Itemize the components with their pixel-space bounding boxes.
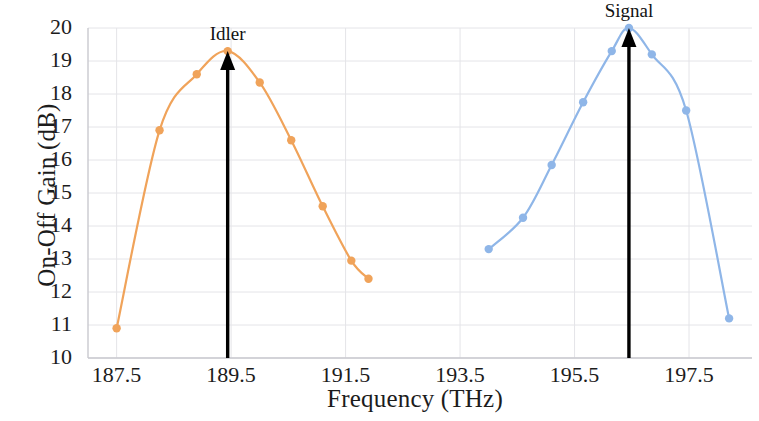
y-tick-label: 10 (28, 344, 72, 370)
x-tick-label: 187.5 (72, 362, 162, 388)
data-series-group (112, 24, 733, 333)
x-axis-title: Frequency (THz) (250, 385, 580, 413)
y-tick-label: 18 (28, 80, 72, 106)
x-tick-label: 191.5 (301, 362, 391, 388)
y-tick-label: 13 (28, 245, 72, 271)
data-point-marker (519, 214, 527, 222)
y-tick-label: 12 (28, 278, 72, 304)
data-point-marker (318, 202, 326, 210)
data-point-marker (256, 78, 264, 86)
data-point-marker (193, 70, 201, 78)
y-tick-label: 20 (28, 14, 72, 40)
y-tick-label: 16 (28, 146, 72, 172)
data-point-marker (725, 314, 733, 322)
data-point-marker (648, 50, 656, 58)
peak-arrow-idler (220, 51, 235, 358)
data-series-idler (112, 47, 372, 333)
gridlines (88, 28, 752, 358)
y-tick-label: 15 (28, 179, 72, 205)
y-tick-label: 19 (28, 47, 72, 73)
data-point-marker (484, 245, 492, 253)
series-line (489, 28, 729, 318)
y-tick-label: 14 (28, 212, 72, 238)
x-tick-label: 189.5 (186, 362, 276, 388)
x-tick-label: 195.5 (530, 362, 620, 388)
y-tick-label: 11 (28, 311, 72, 337)
x-tick-label: 197.5 (644, 362, 734, 388)
data-point-marker (579, 98, 587, 106)
data-series-signal (484, 24, 733, 323)
data-point-marker (364, 275, 372, 283)
data-point-marker (347, 256, 355, 264)
data-point-marker (155, 126, 163, 134)
data-point-marker (547, 161, 555, 169)
data-point-marker (112, 324, 120, 332)
chart-plot-area (0, 0, 759, 421)
data-point-marker (287, 136, 295, 144)
y-tick-label: 17 (28, 113, 72, 139)
series-line (117, 51, 369, 328)
data-point-marker (608, 47, 616, 55)
peak-label-idler: Idler (148, 23, 308, 45)
x-tick-label: 193.5 (415, 362, 505, 388)
data-point-marker (682, 106, 690, 114)
peak-label-signal: Signal (549, 0, 709, 22)
chart-figure: On-Off Gain (dB) Frequency (THz) 1011121… (0, 0, 759, 421)
